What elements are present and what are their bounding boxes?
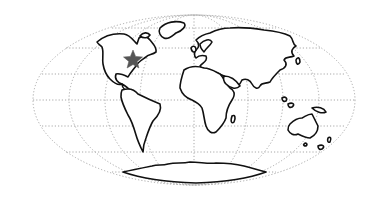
- australia: [288, 114, 318, 138]
- south-america: [121, 89, 161, 152]
- greenland: [159, 22, 185, 39]
- map-canvas: [0, 0, 386, 197]
- world-map: World map (Mollweide-style projection) w…: [0, 0, 386, 197]
- new-zealand: [318, 145, 324, 149]
- landmasses: [97, 22, 331, 183]
- antarctica: [123, 162, 266, 183]
